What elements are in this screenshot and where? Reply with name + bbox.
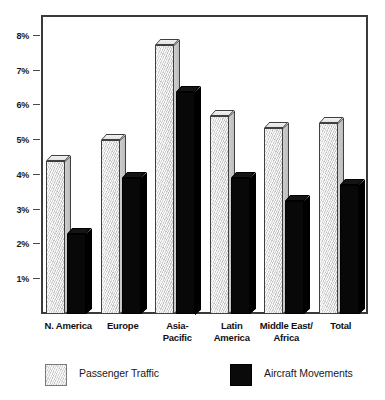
bar-passenger-traffic: [46, 161, 65, 314]
bar-chart: 1%2%3%4%5%6%7%8% N. AmericaEuropeAsia-Pa…: [0, 0, 385, 400]
y-axis-tick-mark: [33, 70, 40, 71]
bar-aircraft-movements: [176, 92, 195, 315]
black-swatch: [230, 364, 252, 386]
bar-side-face: [141, 173, 147, 314]
bar-front-face: [176, 92, 195, 315]
chart-legend: Passenger TrafficAircraft Movements: [0, 356, 385, 400]
x-axis-label-line: Africa: [249, 332, 324, 344]
y-axis-tick-label: 3%: [16, 204, 29, 216]
y-axis-tick: 1%: [0, 273, 41, 285]
y-axis-tick: 7%: [0, 65, 41, 77]
bars-layer: [41, 15, 368, 314]
bar-side-face: [195, 86, 201, 314]
bar-aircraft-movements: [285, 201, 304, 314]
bar-side-face: [86, 229, 92, 314]
y-axis-tick-mark: [33, 209, 40, 210]
bar-side-face: [250, 173, 256, 314]
bar-front-face: [210, 116, 229, 314]
bar-front-face: [101, 140, 120, 314]
bar-front-face: [122, 178, 141, 314]
light-gray-swatch: [45, 364, 67, 386]
y-axis-tick-label: 7%: [16, 65, 29, 77]
bar-aircraft-movements: [67, 234, 86, 314]
bar-passenger-traffic: [264, 128, 283, 314]
y-axis-tick-mark: [33, 243, 40, 244]
x-axis-labels: N. AmericaEuropeAsia-PacificLatinAmerica…: [41, 320, 368, 356]
y-axis-tick-label: 8%: [16, 30, 29, 42]
y-axis-tick-label: 1%: [16, 273, 29, 285]
y-axis-tick-mark: [33, 35, 40, 36]
y-axis-tick: 2%: [0, 238, 41, 250]
bar-front-face: [67, 234, 86, 314]
x-axis-label-line: Total: [304, 320, 379, 332]
bar-front-face: [46, 161, 65, 314]
bar-side-face: [304, 196, 310, 314]
bar-passenger-traffic: [319, 123, 338, 314]
bar-front-face: [155, 45, 174, 314]
bar-front-face: [340, 185, 359, 314]
y-axis-tick-label: 6%: [16, 99, 29, 111]
bar-side-face: [359, 180, 365, 314]
y-axis-tick-mark: [33, 139, 40, 140]
y-axis-tick-mark: [33, 174, 40, 175]
y-axis-tick: 8%: [0, 30, 41, 42]
bar-passenger-traffic: [210, 116, 229, 314]
legend-label: Aircraft Movements: [264, 367, 353, 379]
y-axis-tick: 4%: [0, 169, 41, 181]
y-axis-tick-label: 5%: [16, 134, 29, 146]
y-axis-tick: 3%: [0, 204, 41, 216]
bar-passenger-traffic: [155, 45, 174, 314]
bar-front-face: [264, 128, 283, 314]
bar-aircraft-movements: [122, 178, 141, 314]
bar-front-face: [285, 201, 304, 314]
bar-front-face: [231, 178, 250, 314]
bar-passenger-traffic: [101, 140, 120, 314]
y-axis-tick: 6%: [0, 99, 41, 111]
legend-label: Passenger Traffic: [79, 367, 159, 379]
y-axis-tick-mark: [33, 278, 40, 279]
bar-aircraft-movements: [340, 185, 359, 314]
bar-front-face: [319, 123, 338, 314]
y-axis: 1%2%3%4%5%6%7%8%: [0, 0, 41, 400]
y-axis-tick-label: 4%: [16, 169, 29, 181]
y-axis-tick-mark: [33, 104, 40, 105]
y-axis-tick-label: 2%: [16, 238, 29, 250]
y-axis-tick: 5%: [0, 134, 41, 146]
x-axis-category-label: Total: [304, 320, 379, 332]
bar-aircraft-movements: [231, 178, 250, 314]
